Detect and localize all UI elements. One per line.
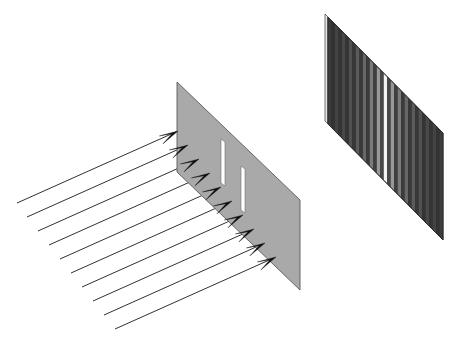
light-ray bbox=[60, 188, 219, 259]
light-ray bbox=[104, 244, 263, 315]
fringe-band bbox=[335, 24, 338, 135]
barrier-slit bbox=[241, 166, 245, 213]
fringe-band bbox=[366, 56, 369, 167]
fringe-band bbox=[408, 98, 411, 209]
fringe-band bbox=[412, 101, 415, 212]
fringe-band bbox=[401, 91, 404, 202]
fringe-band bbox=[331, 21, 334, 132]
fringe-band bbox=[391, 80, 394, 191]
fringe-band bbox=[433, 122, 436, 233]
light-ray bbox=[115, 258, 274, 329]
light-ray bbox=[17, 132, 176, 203]
barrier-group bbox=[177, 82, 300, 290]
fringe-band bbox=[363, 52, 366, 163]
barrier-slit bbox=[221, 139, 225, 186]
fringe-band bbox=[345, 35, 348, 146]
diagram-canvas bbox=[0, 0, 463, 346]
fringe-band bbox=[384, 73, 387, 184]
light-ray bbox=[38, 160, 197, 231]
fringe-band bbox=[377, 66, 380, 177]
light-ray bbox=[49, 174, 208, 245]
fringe-band bbox=[398, 87, 401, 198]
fringe-band bbox=[380, 70, 383, 181]
interference-fringes bbox=[328, 17, 443, 240]
fringe-band bbox=[422, 112, 425, 223]
light-ray bbox=[82, 216, 241, 287]
fringe-band bbox=[405, 94, 408, 205]
fringe-band bbox=[429, 119, 432, 230]
observation-screen-group bbox=[325, 14, 443, 240]
fringe-band bbox=[342, 31, 345, 142]
fringe-band bbox=[356, 45, 359, 156]
fringe-band bbox=[373, 63, 376, 174]
fringe-band bbox=[349, 38, 352, 149]
double-slit-diagram bbox=[0, 0, 463, 346]
fringe-band bbox=[415, 105, 418, 216]
fringe-band bbox=[359, 49, 362, 160]
light-ray bbox=[93, 230, 252, 301]
light-ray bbox=[27, 146, 186, 217]
fringe-band bbox=[436, 126, 439, 237]
fringe-band bbox=[328, 17, 331, 128]
barrier-panel bbox=[177, 82, 300, 290]
fringe-band bbox=[394, 84, 397, 195]
fringe-band bbox=[370, 59, 373, 170]
ray-arrowhead bbox=[159, 131, 178, 144]
fringe-band bbox=[419, 108, 422, 219]
fringe-band bbox=[338, 28, 341, 139]
fringe-band bbox=[387, 77, 390, 188]
fringe-band bbox=[352, 42, 355, 153]
light-ray bbox=[71, 202, 230, 273]
fringe-band bbox=[426, 115, 429, 226]
fringe-band bbox=[440, 129, 443, 240]
